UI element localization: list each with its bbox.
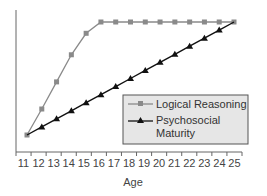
triangle-marker-icon	[112, 83, 119, 89]
square-marker-icon	[217, 20, 222, 25]
triangle-marker-icon	[157, 59, 164, 65]
x-tick-label: 11	[18, 157, 29, 169]
x-tick-label: 19	[138, 157, 150, 169]
x-tick-label: 21	[168, 157, 180, 169]
x-tick-label: 18	[123, 157, 135, 169]
triangle-marker-icon	[83, 99, 90, 105]
square-marker-icon	[69, 52, 74, 57]
x-tick-label: 16	[93, 157, 105, 169]
triangle-marker-icon	[127, 75, 134, 81]
square-marker-icon	[158, 20, 163, 25]
square-marker-icon	[143, 20, 148, 25]
x-tick-label: 15	[78, 157, 90, 169]
square-marker-icon	[84, 31, 89, 36]
legend-label: Psychosocial	[156, 114, 220, 126]
triangle-marker-icon	[171, 51, 178, 57]
triangle-marker-icon	[142, 67, 149, 73]
x-tick-label: 23	[198, 157, 210, 169]
x-axis-ticks	[16, 152, 242, 156]
triangle-marker-icon	[68, 107, 75, 113]
square-marker-icon	[138, 101, 143, 106]
x-axis-title: Age	[123, 176, 143, 188]
square-marker-icon	[172, 20, 177, 25]
x-tick-label: 17	[108, 157, 120, 169]
triangle-marker-icon	[216, 27, 223, 33]
triangle-marker-icon	[97, 91, 104, 97]
line-chart: 111213141516171819202122232425 Age Logic…	[0, 0, 267, 196]
x-tick-label: 24	[213, 157, 225, 169]
square-marker-icon	[187, 20, 192, 25]
x-tick-label: 12	[32, 157, 44, 169]
legend-label: Maturity	[156, 127, 196, 139]
square-marker-icon	[54, 79, 59, 84]
x-tick-label: 14	[63, 157, 75, 169]
legend-label: Logical Reasoning	[156, 98, 247, 110]
legend: Logical Reasoning Psychosocial Maturity	[123, 95, 248, 144]
x-tick-label: 25	[228, 157, 240, 169]
triangle-marker-icon	[38, 123, 45, 129]
triangle-marker-icon	[186, 43, 193, 49]
square-marker-icon	[202, 20, 207, 25]
x-tick-label: 20	[153, 157, 165, 169]
x-tick-label: 22	[183, 157, 195, 169]
square-marker-icon	[128, 20, 133, 25]
square-marker-icon	[39, 107, 44, 112]
square-marker-icon	[98, 20, 103, 25]
triangle-marker-icon	[201, 35, 208, 41]
x-axis-tick-labels: 111213141516171819202122232425	[18, 157, 241, 169]
square-marker-icon	[113, 20, 118, 25]
x-tick-label: 13	[48, 157, 60, 169]
triangle-marker-icon	[53, 115, 60, 121]
